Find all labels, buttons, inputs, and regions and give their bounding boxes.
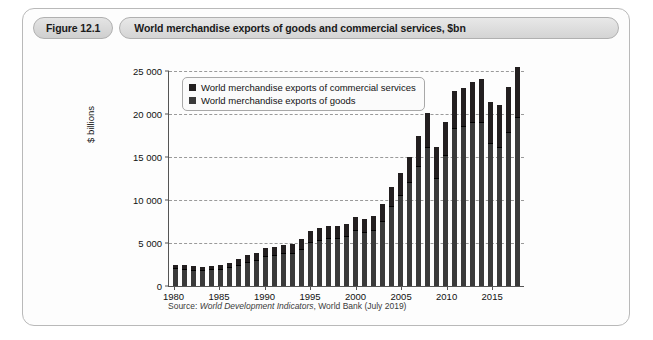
bar-group[interactable] xyxy=(504,71,513,286)
bar-segment-goods xyxy=(344,236,350,286)
y-axis-tick-label: 5 000 xyxy=(138,238,162,249)
bar-segment-goods xyxy=(461,126,467,286)
bar-segment-services xyxy=(497,105,503,147)
bar-group[interactable] xyxy=(432,71,441,286)
bar-segment-services xyxy=(317,228,323,240)
bar-segment-goods xyxy=(371,230,377,286)
bar-segment-goods xyxy=(326,238,332,286)
bar-segment-services xyxy=(515,67,521,117)
figure-title: World merchandise exports of goods and c… xyxy=(119,17,619,39)
bar-segment-services xyxy=(263,248,269,256)
plot-area: 05 00010 00015 00020 00025 000 198019851… xyxy=(168,71,524,287)
bar-segment-goods xyxy=(281,253,287,286)
bar-segment-goods xyxy=(452,128,458,286)
x-axis-tick-label: 2010 xyxy=(436,291,457,302)
legend-label: World merchandise exports of commercial … xyxy=(201,82,416,93)
x-axis-tick-mark xyxy=(356,286,357,290)
bar-segment-goods xyxy=(209,269,215,286)
bar-segment-goods xyxy=(173,268,179,286)
bar-segment-goods xyxy=(236,265,242,286)
bar-segment-goods xyxy=(263,256,269,286)
bar-segment-goods xyxy=(506,132,512,286)
bar-segment-goods xyxy=(254,260,260,286)
source-note: Source: World Development Indicators, Wo… xyxy=(168,301,406,311)
bar-segment-goods xyxy=(353,230,359,286)
bar-segment-services xyxy=(335,226,341,238)
legend-swatch-icon xyxy=(189,97,196,104)
bar-segment-goods xyxy=(200,270,206,286)
bar-segment-goods xyxy=(308,242,314,286)
bar-segment-services xyxy=(488,102,494,143)
legend-item[interactable]: World merchandise exports of goods xyxy=(189,95,416,106)
x-axis-tick-mark xyxy=(492,286,493,290)
bar-segment-goods xyxy=(218,269,224,286)
source-suffix: , World Bank (July 2019) xyxy=(314,301,407,311)
bar-segment-services xyxy=(479,79,485,122)
bar-segment-services xyxy=(443,122,449,154)
bar-segment-goods xyxy=(416,166,422,286)
bar-segment-goods xyxy=(425,147,431,286)
bar-segment-services xyxy=(389,187,395,206)
bar-group[interactable] xyxy=(495,71,504,286)
bar-segment-services xyxy=(452,91,458,127)
bar-segment-goods xyxy=(272,255,278,286)
bar-segment-services xyxy=(326,226,332,238)
bar-segment-goods xyxy=(362,232,368,286)
figure-number-badge: Figure 12.1 xyxy=(33,17,113,39)
bar-segment-services xyxy=(470,82,476,122)
figure-card: Figure 12.1 World merchandise exports of… xyxy=(22,8,630,326)
legend-swatch-icon xyxy=(189,84,196,91)
bar-segment-goods xyxy=(497,147,503,286)
x-axis-tick-mark xyxy=(401,286,402,290)
legend-item[interactable]: World merchandise exports of commercial … xyxy=(189,82,416,93)
bar-segment-services xyxy=(380,204,386,220)
bar-segment-goods xyxy=(299,249,305,286)
bar-segment-goods xyxy=(515,117,521,286)
x-axis-tick-mark xyxy=(174,286,175,290)
figure-header: Figure 12.1 World merchandise exports of… xyxy=(33,17,619,39)
x-axis-tick-mark xyxy=(310,286,311,290)
bar-segment-services xyxy=(398,173,404,195)
bar-segment-goods xyxy=(191,270,197,286)
bar-segment-goods xyxy=(470,122,476,286)
bar-segment-goods xyxy=(182,269,188,286)
bar-segment-goods xyxy=(407,182,413,286)
bar-segment-goods xyxy=(380,221,386,287)
bar-segment-services xyxy=(308,231,314,242)
source-prefix: Source: xyxy=(168,301,197,311)
bar-group[interactable] xyxy=(486,71,495,286)
bar-segment-goods xyxy=(389,206,395,286)
bar-segment-services xyxy=(407,157,413,182)
bar-group[interactable] xyxy=(468,71,477,286)
bar-segment-services xyxy=(425,113,431,147)
bar-segment-goods xyxy=(398,195,404,286)
bar-group[interactable] xyxy=(477,71,486,286)
bar-segment-services xyxy=(281,245,287,254)
bar-group[interactable] xyxy=(459,71,468,286)
bar-segment-goods xyxy=(479,122,485,286)
bar-segment-services xyxy=(434,147,440,177)
bar-segment-services xyxy=(461,88,467,126)
x-axis-tick-mark xyxy=(219,286,220,290)
bar-segment-goods xyxy=(245,262,251,286)
bar-segment-services xyxy=(254,253,260,260)
y-axis-tick-label: 0 xyxy=(157,281,162,292)
bar-segment-goods xyxy=(443,155,449,286)
bar-segment-services xyxy=(299,239,305,248)
y-axis-tick-label: 25 000 xyxy=(133,66,162,77)
x-axis-tick-mark xyxy=(265,286,266,290)
bar-segment-services xyxy=(290,244,296,253)
bar-segment-goods xyxy=(227,267,233,286)
bar-group[interactable] xyxy=(171,71,180,286)
y-axis-title: $ billions xyxy=(85,106,96,143)
bar-segment-services xyxy=(272,247,278,255)
bar-segment-goods xyxy=(434,178,440,287)
bar-group[interactable] xyxy=(450,71,459,286)
bar-group[interactable] xyxy=(441,71,450,286)
legend-label: World merchandise exports of goods xyxy=(201,95,356,106)
bar-group[interactable] xyxy=(513,71,522,286)
x-axis-tick-mark xyxy=(447,286,448,290)
source-publication: World Development Indicators xyxy=(200,301,314,311)
bar-segment-goods xyxy=(335,238,341,286)
chart-legend: World merchandise exports of commercial … xyxy=(182,77,425,111)
